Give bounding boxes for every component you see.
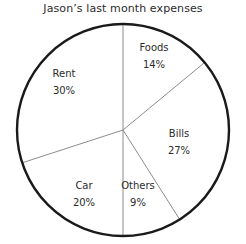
slice-name-others: Others (112, 180, 164, 192)
slice-label-car: Car 20% (58, 180, 110, 209)
slice-label-bills: Bills 27% (153, 128, 205, 157)
pie-chart: Jason’s last month expenses Foods 14% Bi… (0, 0, 246, 244)
slice-value-bills: 27% (153, 145, 205, 157)
slice-name-foods: Foods (128, 42, 180, 54)
slice-label-foods: Foods 14% (128, 42, 180, 71)
slice-value-foods: 14% (128, 59, 180, 71)
slice-value-car: 20% (58, 197, 110, 209)
slice-name-bills: Bills (153, 128, 205, 140)
slice-label-rent: Rent 30% (38, 68, 90, 97)
slice-value-others: 9% (112, 197, 164, 209)
slice-label-others: Others 9% (112, 180, 164, 209)
slice-name-car: Car (58, 180, 110, 192)
slice-value-rent: 30% (38, 85, 90, 97)
slice-name-rent: Rent (38, 68, 90, 80)
